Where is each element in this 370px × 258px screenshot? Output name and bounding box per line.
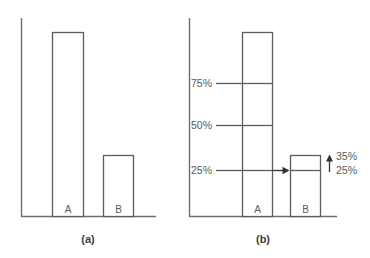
panel-b-tick-label-50: 50% [191,119,212,131]
panel-b-annotation-lower: 25% [336,164,357,176]
panel-b-caption: (b) [256,233,270,245]
panel-b-bar-a-label: A [254,204,261,215]
panel-b-tick-label-25: 25% [191,164,212,176]
panel-a: A B (a) [21,18,156,245]
figure-container: A B (a) 75% 50% 25% [0,0,370,258]
panel-b-difference-arrow-head [326,155,333,162]
panel-b-bar-a [243,33,273,217]
panel-a-bar-a [53,33,84,217]
panel-b-reference-arrow-head [283,167,290,174]
two-panel-bar-figure: A B (a) 75% 50% 25% [0,0,370,258]
panel-b-annotation-upper: 35% [336,150,357,162]
panel-b-bar-b-label: B [302,204,309,215]
panel-a-caption: (a) [81,233,95,245]
panel-a-bar-b-label: B [115,204,122,215]
panel-b: 75% 50% 25% A B 35% 25% (b) [189,18,357,245]
panel-a-bar-a-label: A [65,204,72,215]
panel-b-tick-label-75: 75% [191,77,212,89]
